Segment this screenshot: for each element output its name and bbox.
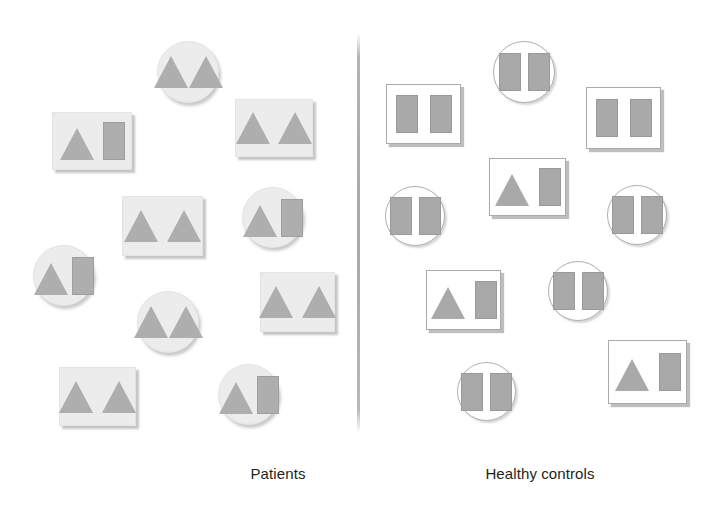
healthy-controls-caption: Healthy controls (420, 465, 660, 482)
rect-glyph (103, 122, 125, 160)
card-glyph-row (60, 122, 125, 160)
rect-glyph (596, 99, 618, 137)
triangle-glyph (167, 210, 201, 242)
triangle-glyph (34, 263, 68, 295)
triangle-glyph (189, 56, 223, 88)
rect-glyph (72, 257, 94, 295)
patients-card-square (235, 99, 313, 157)
patients-card-square (260, 272, 335, 332)
triangle-glyph (302, 286, 336, 318)
card-glyph-row (154, 56, 223, 88)
card-glyph-row (259, 286, 336, 318)
rect-glyph (475, 281, 497, 319)
rect-glyph (490, 373, 512, 411)
healthy-controls-card-circle (493, 41, 555, 103)
healthy-controls-card-circle (457, 362, 516, 421)
rect-glyph (528, 53, 550, 91)
healthy-controls-card-circle (607, 185, 667, 245)
triangle-glyph (124, 210, 158, 242)
patients-caption: Patients (158, 465, 398, 482)
patients-card-circle (33, 245, 94, 306)
patients-card-square (59, 367, 136, 426)
rect-glyph (390, 197, 412, 235)
healthy-controls-card-square (489, 158, 566, 216)
patients-card-circle (137, 291, 199, 353)
healthy-controls-card-square (386, 84, 461, 144)
triangle-glyph (615, 359, 649, 391)
card-glyph-row (34, 257, 94, 295)
rect-glyph (461, 373, 483, 411)
healthy-controls-card-circle (385, 186, 445, 246)
rect-glyph (582, 272, 604, 310)
rect-glyph (499, 53, 521, 91)
triangle-glyph (243, 205, 277, 237)
rect-glyph (612, 196, 634, 234)
healthy-controls-card-square (586, 87, 661, 149)
card-glyph-row (219, 376, 279, 414)
healthy-controls-card-square (608, 340, 687, 404)
triangle-glyph (236, 112, 270, 144)
card-glyph-row (134, 306, 203, 338)
card-glyph-row (499, 53, 550, 91)
group-divider-line (357, 33, 360, 433)
patients-card-circle (157, 41, 219, 103)
rect-glyph (257, 376, 279, 414)
triangle-glyph (134, 306, 168, 338)
healthy-controls-card-circle (548, 261, 608, 321)
rect-glyph (430, 95, 452, 133)
patients-card-square (122, 196, 203, 256)
rect-glyph (553, 272, 575, 310)
patients-card-square (52, 112, 132, 170)
rect-glyph (396, 95, 418, 133)
card-glyph-row (59, 381, 136, 413)
patients-card-circle (218, 364, 279, 425)
rect-glyph (630, 99, 652, 137)
card-glyph-row (236, 112, 312, 144)
shape-comparison-figure: Patients Healthy controls (0, 0, 717, 515)
triangle-glyph (154, 56, 188, 88)
card-glyph-row (461, 373, 512, 411)
triangle-glyph (60, 128, 94, 160)
healthy-controls-card-square (426, 270, 501, 330)
rect-glyph (641, 196, 663, 234)
card-glyph-row (615, 353, 681, 391)
triangle-glyph (259, 286, 293, 318)
card-glyph-row (390, 197, 441, 235)
triangle-glyph (431, 287, 465, 319)
triangle-glyph (59, 381, 93, 413)
rect-glyph (281, 199, 303, 237)
rect-glyph (419, 197, 441, 235)
card-glyph-row (596, 99, 652, 137)
card-glyph-row (553, 272, 604, 310)
card-glyph-row (243, 199, 303, 237)
patients-card-circle (242, 187, 303, 248)
triangle-glyph (278, 112, 312, 144)
triangle-glyph (169, 306, 203, 338)
triangle-glyph (102, 381, 136, 413)
card-glyph-row (495, 168, 561, 206)
card-glyph-row (124, 210, 201, 242)
card-glyph-row (431, 281, 497, 319)
card-glyph-row (396, 95, 452, 133)
rect-glyph (659, 353, 681, 391)
triangle-glyph (219, 382, 253, 414)
card-glyph-row (612, 196, 663, 234)
rect-glyph (539, 168, 561, 206)
triangle-glyph (495, 174, 529, 206)
